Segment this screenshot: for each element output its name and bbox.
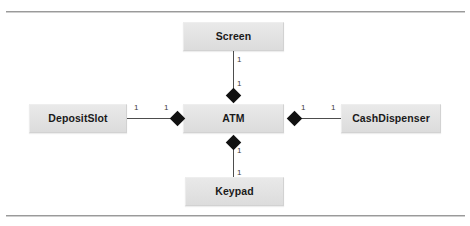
class-box-cashdispenser[interactable]: CashDispenser [341,104,441,133]
frame-rule-bottom [6,215,465,217]
class-name-cashdispenser: CashDispenser [352,113,430,124]
composition-diamond-icon-screen [226,88,242,104]
multiplicity-label-cashdispenser-atm-end: 1 [301,104,305,112]
class-name-depositslot: DepositSlot [48,113,107,124]
multiplicity-label-screen-end: 1 [237,80,241,88]
composition-diamond-icon-cashdispenser [287,111,303,127]
class-name-atm: ATM [222,113,244,124]
connector-atm-depositslot [127,118,174,119]
frame-rule-top [6,11,465,13]
multiplicity-label-screen-atm-end: 1 [237,56,241,64]
class-name-screen: Screen [216,31,252,42]
multiplicity-label-depositslot-atm-end: 1 [164,104,168,112]
multiplicity-label-depositslot-end: 1 [134,104,138,112]
multiplicity-label-keypad-end: 1 [237,169,241,177]
class-box-depositslot[interactable]: DepositSlot [29,104,127,133]
class-name-keypad: Keypad [215,186,254,197]
class-box-keypad[interactable]: Keypad [185,177,284,206]
class-box-atm[interactable]: ATM [183,104,284,133]
uml-composition-diagram: 1 1 1 1 1 1 1 1 Screen ATM Keypad Deposi… [0,0,470,226]
multiplicity-label-cashdispenser-end: 1 [331,104,335,112]
multiplicity-label-keypad-atm-end: 1 [237,147,241,155]
class-box-screen[interactable]: Screen [183,22,284,51]
